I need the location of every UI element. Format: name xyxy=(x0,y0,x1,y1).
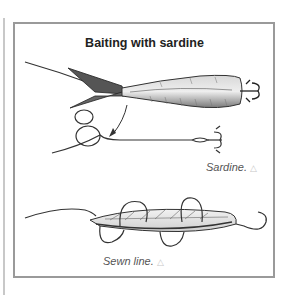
caption-sewn-line: Sewn line.△ xyxy=(103,255,164,267)
caption-sardine: Sardine.△ xyxy=(206,161,257,173)
arrow-icon xyxy=(113,105,127,134)
warning-triangle-icon: △ xyxy=(250,163,257,173)
warning-triangle-icon: △ xyxy=(157,257,164,267)
baiting-illustration xyxy=(0,0,289,295)
sewn-line-figure xyxy=(25,198,266,246)
knot-leader-figure xyxy=(52,110,222,153)
sardine-figure xyxy=(25,62,259,108)
treble-hook-icon xyxy=(240,80,259,102)
